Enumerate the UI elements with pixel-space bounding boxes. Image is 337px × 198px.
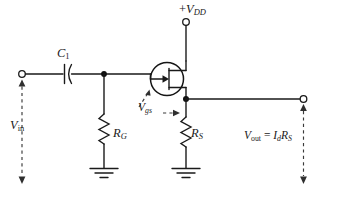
rg-zigzag-icon [99, 114, 109, 144]
vout-measure-arrow [300, 104, 307, 184]
supply-plus-sign: + [179, 2, 186, 16]
output-label: Vout = IdRS [244, 130, 292, 143]
rs-subscript: S [199, 131, 203, 141]
rs-zigzag-icon [181, 117, 191, 147]
gate-arrow-icon [163, 75, 170, 82]
rg-symbol: R [113, 126, 121, 140]
vout-arrowhead-up [300, 104, 307, 111]
input-subscript: in [18, 123, 25, 133]
gate-source-voltage-label: Vgs [138, 102, 152, 115]
output-branch [186, 96, 307, 103]
vout-resistor-subscript: S [288, 134, 292, 143]
output-terminal-node[interactable] [300, 96, 307, 103]
vgs-arrowhead-source [173, 110, 180, 116]
vout-symbol: V [244, 129, 251, 141]
rs-symbol: R [191, 126, 199, 140]
ground-symbol-rs [172, 169, 200, 178]
vout-arrowhead-down [300, 177, 307, 185]
vgs-arrowhead-gate [145, 90, 150, 96]
vout-subscript: out [251, 134, 261, 143]
schematic-canvas [0, 0, 337, 198]
supply-symbol: V [186, 2, 194, 16]
gate-resistor-label: RG [113, 127, 127, 141]
resistor-rg[interactable] [99, 74, 109, 168]
input-symbol: V [10, 118, 18, 132]
resistor-rs[interactable] [181, 96, 191, 168]
rg-subscript: G [121, 131, 127, 141]
supply-label: +VDD [179, 3, 206, 17]
capacitor-c1-icon [65, 65, 72, 84]
vin-arrowhead-down [19, 177, 26, 185]
vgs-subscript: gs [145, 106, 152, 115]
capacitor-subscript: 1 [65, 51, 69, 61]
vin-arrowhead-up [19, 80, 26, 87]
source-resistor-label: RS [191, 127, 203, 141]
supply-terminal-node[interactable] [183, 19, 190, 26]
supply-subscript: DD [194, 7, 206, 17]
input-terminal-node[interactable] [19, 71, 26, 78]
ground-symbol-rg [90, 169, 118, 178]
jfet-transistor[interactable] [151, 61, 187, 99]
input-branch [19, 65, 151, 84]
supply-branch [183, 19, 190, 61]
input-label: Vin [10, 119, 24, 133]
circuit-diagram: +VDD C1 Vin RG RS Vgs Vout = IdRS [0, 0, 337, 198]
vgs-symbol: V [138, 101, 145, 113]
vout-resistor-symbol: R [281, 129, 288, 141]
capacitor-label: C1 [57, 47, 70, 61]
